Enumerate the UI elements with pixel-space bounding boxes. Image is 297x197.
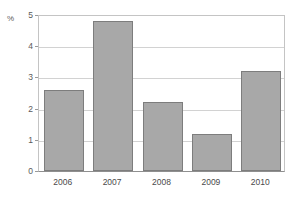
x-axis-tick-label-2006: 2006	[38, 177, 88, 187]
x-axis-tick-label-2009: 2009	[186, 177, 236, 187]
x-axis-tick-label-2010: 2010	[235, 177, 285, 187]
y-axis-tick-label: 1	[0, 135, 33, 145]
bar-2006	[44, 90, 84, 171]
y-axis-tick-mark	[35, 46, 38, 47]
y-axis-tick-mark	[35, 171, 38, 172]
bar-2008	[143, 102, 183, 171]
y-axis-tick-label: 0	[0, 166, 33, 176]
bar-2007	[93, 21, 133, 171]
bar-series	[39, 16, 284, 171]
plot-area	[38, 15, 285, 172]
x-axis-tick-label-2008: 2008	[137, 177, 187, 187]
bar-2010	[241, 71, 281, 171]
y-axis-tick-label: 3	[0, 72, 33, 82]
y-axis-tick-mark	[35, 109, 38, 110]
bar-2009	[192, 134, 232, 171]
x-axis-tick-label-2007: 2007	[87, 177, 137, 187]
y-axis-tick-label: 5	[0, 10, 33, 20]
y-axis-tick-label: 2	[0, 104, 33, 114]
y-axis-tick-mark	[35, 77, 38, 78]
y-axis-tick-mark	[35, 15, 38, 16]
y-axis-tick-label: 4	[0, 41, 33, 51]
bar-chart: % 012345 20062007200820092010	[0, 0, 297, 197]
y-axis-tick-mark	[35, 140, 38, 141]
